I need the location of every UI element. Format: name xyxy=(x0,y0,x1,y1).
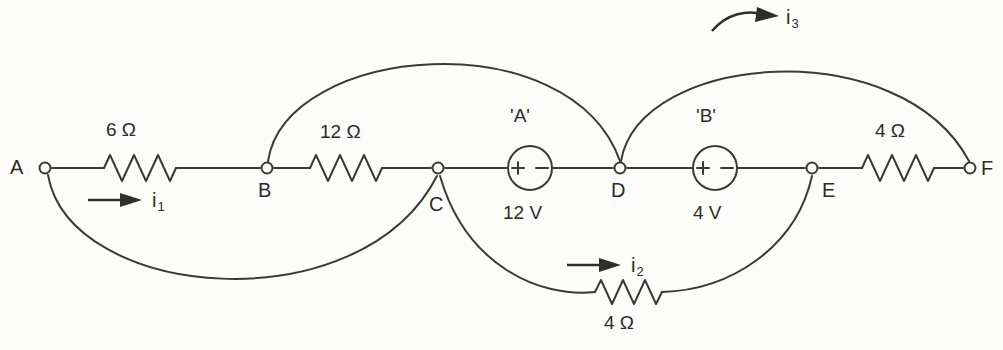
node-label-c: C xyxy=(429,194,443,214)
branch-arc-a-to-c xyxy=(48,175,437,279)
node-e-terminal xyxy=(807,163,818,174)
node-f-terminal xyxy=(965,163,976,174)
source-voltage-a: 12 V xyxy=(503,203,542,222)
resistor-4ohm-zigzag xyxy=(862,155,934,181)
current-i3-arrow-shaft xyxy=(712,12,762,31)
resistor-label-4ohm-ce: 4 Ω xyxy=(604,313,634,332)
current-label-i1-symbol: i xyxy=(152,189,156,211)
resistor-12ohm-zigzag xyxy=(310,155,382,181)
current-label-i3-symbol: i xyxy=(786,6,790,28)
circuit-schematic-canvas xyxy=(0,0,1003,350)
resistor-label-12ohm: 12 Ω xyxy=(320,122,361,141)
source-name-b: 'B' xyxy=(696,106,716,125)
resistor-6ohm-zigzag xyxy=(104,155,176,181)
current-i2-arrow-head xyxy=(599,258,621,272)
node-label-e: E xyxy=(822,180,835,200)
node-label-f: F xyxy=(981,158,993,178)
current-label-i2: i2 xyxy=(631,255,643,275)
current-label-i1-subscript: 1 xyxy=(157,199,164,214)
resistor-label-4ohm-ef: 4 Ω xyxy=(875,121,905,140)
node-c-terminal xyxy=(433,163,444,174)
node-label-d: D xyxy=(611,180,625,200)
branch-arc-c-to-r4bottom xyxy=(440,176,595,293)
source-name-a: 'A' xyxy=(510,106,530,125)
node-b-terminal xyxy=(262,163,273,174)
current-label-i2-subscript: 2 xyxy=(636,264,643,279)
resistor-4ohm-bottom-zigzag xyxy=(595,280,662,304)
current-label-i2-symbol: i xyxy=(631,254,635,276)
branch-arc-b-to-d xyxy=(268,64,620,161)
current-label-i1: i1 xyxy=(152,190,164,210)
node-d-terminal xyxy=(615,163,626,174)
current-label-i3: i3 xyxy=(786,7,798,27)
resistor-label-6ohm: 6 Ω xyxy=(106,120,136,139)
node-label-b: B xyxy=(258,180,271,200)
current-i3-arrow-head xyxy=(755,7,779,22)
branch-arc-d-to-f xyxy=(621,72,969,161)
source-voltage-b: 4 V xyxy=(693,203,722,222)
circuit-diagram: A B C D E F 6 Ω 12 Ω 4 Ω 4 Ω 'A' 12 V 'B… xyxy=(0,0,1003,350)
node-label-a: A xyxy=(10,157,23,177)
current-label-i3-subscript: 3 xyxy=(791,16,798,31)
node-a-terminal xyxy=(40,163,51,174)
branch-arc-r4bottom-to-e xyxy=(662,176,812,292)
current-i1-arrow-head xyxy=(120,193,142,207)
